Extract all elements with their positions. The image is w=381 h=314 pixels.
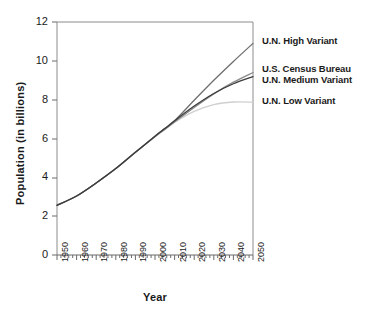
y-tick-label: 2 — [22, 210, 48, 221]
series-line — [57, 72, 253, 205]
y-axis-title: Population (in billions) — [14, 82, 26, 205]
y-tick-label: 0 — [22, 249, 48, 260]
series-line — [57, 43, 253, 205]
series-annotation-label: U.S. Census Bureau — [262, 63, 351, 74]
x-tick-label: 2000 — [159, 242, 168, 262]
series-annotation-label: U.N. High Variant — [262, 35, 337, 46]
population-projection-chart: 121086420 195019601970198019902000201020… — [0, 0, 381, 314]
axis-frame — [57, 22, 253, 255]
x-tick-label: 1960 — [81, 242, 90, 262]
x-tick-label: 1990 — [139, 242, 148, 262]
x-axis-title: Year — [55, 291, 255, 303]
x-tick-label: 1980 — [120, 242, 129, 262]
y-tick-marks — [52, 22, 57, 255]
chart-canvas — [0, 0, 381, 314]
series-lines — [57, 43, 253, 205]
y-tick-label: 12 — [22, 16, 48, 27]
x-tick-label: 1970 — [100, 242, 109, 262]
x-tick-label: 2030 — [218, 242, 227, 262]
x-tick-label: 2040 — [237, 242, 246, 262]
series-annotation-label: U.N. Low Variant — [262, 95, 335, 106]
x-tick-label: 2050 — [257, 242, 266, 262]
x-tick-label: 2020 — [198, 242, 207, 262]
y-tick-label: 10 — [22, 55, 48, 66]
series-annotation-label: U.N. Medium Variant — [262, 74, 352, 85]
series-line — [57, 77, 253, 206]
x-tick-label: 2010 — [179, 242, 188, 262]
x-tick-label: 1950 — [61, 242, 70, 262]
